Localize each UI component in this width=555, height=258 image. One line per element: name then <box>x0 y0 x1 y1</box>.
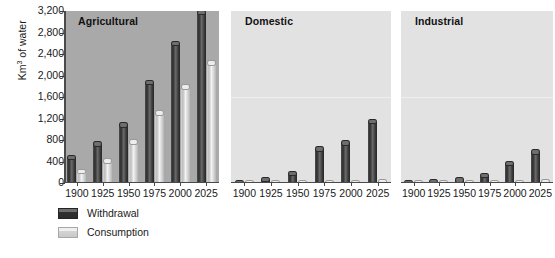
bar-withdrawal <box>368 119 377 184</box>
y-axis-tick-label: 3,200 <box>30 5 64 16</box>
x-axis-line <box>231 182 391 184</box>
bar-consumption <box>181 84 190 183</box>
x-axis-tick-label: 2025 <box>361 188 395 199</box>
bar-cap <box>67 155 76 161</box>
y-axis-tick-label: 1,600 <box>30 91 64 102</box>
bar-withdrawal <box>145 80 154 183</box>
bar-body <box>505 164 514 183</box>
bar-body <box>171 44 180 183</box>
chart-legend: WithdrawalConsumption <box>58 205 149 243</box>
bar-consumption <box>207 60 216 183</box>
panel-title: Agricultural <box>78 15 138 27</box>
bar-cap <box>145 80 154 86</box>
x-axis-tick-mark <box>464 183 465 186</box>
x-axis-tick-mark <box>271 183 272 186</box>
bar-body <box>207 63 216 183</box>
x-axis-tick-mark <box>244 183 245 186</box>
bar-cap <box>368 119 377 125</box>
bar-cap <box>103 158 112 164</box>
bar-group <box>193 11 219 183</box>
bar-withdrawal <box>505 161 514 183</box>
bar-cap <box>171 41 180 47</box>
bar-cap <box>480 173 489 179</box>
bar-body <box>341 143 350 183</box>
bar-withdrawal <box>315 146 324 183</box>
y-axis-tick-label: 1,200 <box>30 113 64 124</box>
bar-body <box>181 87 190 183</box>
x-axis-tick-mark <box>324 183 325 186</box>
y-axis: Km3 of water 04008001,2001,6002,0002,400… <box>0 0 64 258</box>
x-axis-tick-mark <box>351 183 352 186</box>
bar-cap <box>341 140 350 146</box>
y-axis-tick-label: 0 <box>30 177 64 188</box>
bar-body <box>368 122 377 184</box>
y-axis-tick-label: 800 <box>30 134 64 145</box>
bar-withdrawal <box>531 149 540 183</box>
bar-cap <box>181 84 190 90</box>
y-axis-tick-label: 2,000 <box>30 70 64 81</box>
bar-group <box>64 155 90 183</box>
x-axis-tick-label: 2025 <box>523 188 555 199</box>
legend-item: Withdrawal <box>58 205 149 221</box>
bar-body <box>119 125 128 183</box>
bar-withdrawal <box>341 140 350 183</box>
legend-label: Withdrawal <box>87 207 139 219</box>
dark-gray-swatch <box>58 208 78 219</box>
x-axis-tick-mark <box>439 183 440 186</box>
panel-domestic: Domestic <box>231 11 391 183</box>
light-gray-swatch <box>58 227 78 238</box>
bar-group <box>90 141 116 183</box>
bar-consumption <box>129 139 138 183</box>
bar-group <box>167 41 193 183</box>
bar-withdrawal <box>93 141 102 183</box>
bar-group <box>311 146 338 183</box>
bar-body <box>129 142 138 183</box>
bar-cap <box>77 169 86 175</box>
legend-item: Consumption <box>58 224 149 240</box>
x-axis-tick-mark <box>414 183 415 186</box>
x-axis-tick-mark <box>103 183 104 186</box>
faint-gridline <box>401 97 553 98</box>
bar-group <box>116 122 142 183</box>
x-axis-tick-mark <box>180 183 181 186</box>
bar-group <box>528 149 553 183</box>
bar-withdrawal <box>171 41 180 183</box>
panel-agricultural: Agricultural <box>64 11 219 183</box>
x-axis-tick-mark <box>77 183 78 186</box>
x-axis-tick-mark <box>540 183 541 186</box>
bar-body <box>145 83 154 183</box>
bar-cap <box>119 122 128 128</box>
x-axis-line <box>401 182 553 184</box>
x-axis-tick-mark <box>129 183 130 186</box>
bar-body <box>103 161 112 183</box>
x-axis-tick-mark <box>298 183 299 186</box>
y-axis-tick-label: 2,800 <box>30 27 64 38</box>
x-axis-tick-mark <box>490 183 491 186</box>
bar-group <box>142 80 168 183</box>
x-axis-tick-label: 2025 <box>189 188 223 199</box>
y-axis-title: Km3 of water <box>16 0 29 110</box>
bar-cap <box>197 11 206 15</box>
bar-cap <box>207 60 216 66</box>
faint-gridline <box>231 97 391 98</box>
plot-area-agricultural <box>64 11 219 183</box>
bar-body <box>315 149 324 183</box>
bar-body <box>155 113 164 183</box>
bar-cap <box>155 110 164 116</box>
bar-withdrawal <box>119 122 128 183</box>
bar-consumption <box>155 110 164 183</box>
bar-cap <box>315 146 324 152</box>
bar-body <box>531 152 540 183</box>
x-axis-tick-mark <box>206 183 207 186</box>
y-axis-tick-label: 2,400 <box>30 48 64 59</box>
x-axis-line <box>64 182 219 184</box>
water-use-chart-figure: Km3 of water 04008001,2001,6002,0002,400… <box>0 0 555 258</box>
panel-title: Domestic <box>245 15 293 27</box>
bar-cap <box>129 139 138 145</box>
bar-body <box>93 144 102 183</box>
legend-label: Consumption <box>87 226 149 238</box>
panel-title: Industrial <box>415 15 463 27</box>
bar-cap <box>288 171 297 177</box>
bar-body <box>197 13 206 183</box>
x-axis-tick-mark <box>515 183 516 186</box>
